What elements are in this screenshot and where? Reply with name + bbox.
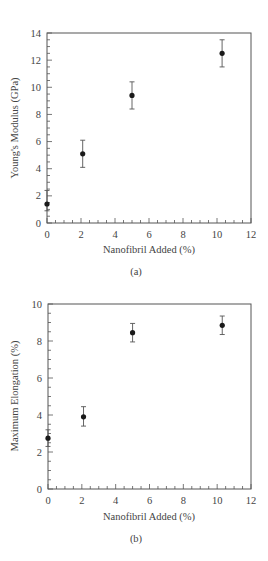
y-tick-label: 2 (37, 447, 42, 458)
marker-dot (45, 436, 50, 441)
y-tick-label: 8 (36, 109, 41, 120)
x-tick-label: 6 (147, 495, 152, 506)
data-point (45, 430, 50, 447)
figure-caption: (a) (130, 266, 142, 278)
y-tick-label: 6 (36, 136, 41, 147)
y-tick-label: 2 (36, 190, 41, 201)
data-point (80, 140, 85, 167)
marker-dot (220, 323, 225, 328)
x-tick-label: 2 (78, 229, 83, 240)
x-tick-label: 8 (180, 229, 185, 240)
y-tick-label: 0 (37, 484, 42, 495)
data-point (81, 407, 86, 426)
y-tick-label: 0 (36, 218, 41, 229)
marker-dot (220, 51, 225, 56)
plot-frame (47, 33, 251, 223)
marker-dot (129, 93, 134, 98)
data-point (220, 316, 225, 335)
y-tick-label: 10 (31, 82, 42, 93)
x-axis-label: Nanofibril Added (%) (103, 511, 196, 523)
x-tick-label: 0 (44, 229, 49, 240)
chart-panel-a: 02468101202468101214 Nanofibril Added (%… (0, 0, 268, 280)
y-axis-label: Maximum Elongation (%) (9, 340, 21, 451)
plot-area: 0246810120246810 (32, 299, 257, 507)
youngs-modulus-chart: 02468101202468101214 Nanofibril Added (%… (0, 0, 268, 280)
y-tick-label: 6 (37, 373, 42, 384)
x-tick-label: 10 (212, 495, 223, 506)
max-elongation-chart: 0246810120246810 Nanofibril Added (%) Ma… (0, 280, 268, 561)
x-tick-label: 12 (246, 495, 257, 506)
marker-dot (80, 151, 85, 156)
x-tick-label: 8 (181, 495, 186, 506)
marker-dot (44, 201, 49, 206)
y-tick-label: 10 (32, 299, 43, 310)
chart-panel-b: 0246810120246810 Nanofibril Added (%) Ma… (0, 280, 268, 561)
x-tick-label: 6 (146, 229, 151, 240)
x-tick-label: 12 (246, 229, 257, 240)
y-tick-label: 4 (36, 163, 42, 174)
x-tick-label: 2 (79, 495, 84, 506)
data-point (130, 323, 135, 342)
x-axis-label: Nanofibril Added (%) (103, 244, 196, 256)
y-axis-label: Young's Modulus (GPa) (9, 77, 21, 179)
plot-frame (48, 304, 251, 489)
x-tick-label: 4 (112, 229, 118, 240)
y-tick-label: 14 (31, 28, 42, 39)
x-tick-label: 0 (45, 495, 50, 506)
data-point (220, 40, 225, 67)
x-tick-label: 4 (113, 495, 119, 506)
y-tick-label: 4 (37, 410, 43, 421)
marker-dot (130, 330, 135, 335)
y-tick-label: 8 (37, 336, 42, 347)
x-tick-label: 10 (212, 229, 223, 240)
plot-area: 02468101202468101214 (31, 28, 257, 241)
marker-dot (81, 414, 86, 419)
data-point (44, 190, 49, 210)
y-tick-label: 12 (31, 55, 42, 66)
data-point (129, 82, 134, 109)
figure-caption: (b) (130, 533, 143, 545)
